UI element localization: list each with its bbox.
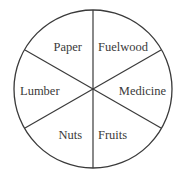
pie-diagram: Paper Fuelwood Medicine Fruits Nuts Lumb… [0, 0, 186, 180]
segment-label-medicine: Medicine [119, 84, 167, 98]
segment-label-fuelwood: Fuelwood [98, 40, 149, 54]
segment-label-paper: Paper [54, 40, 83, 54]
segment-label-fruits: Fruits [98, 128, 127, 142]
segment-label-nuts: Nuts [58, 128, 82, 142]
segment-label-lumber: Lumber [20, 84, 60, 98]
